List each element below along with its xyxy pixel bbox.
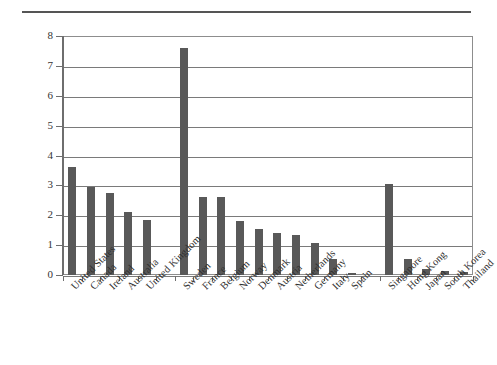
- x-axis-labels-group: United StatesCanadaIrelandAustraliaUnite…: [0, 0, 497, 365]
- x-axis-label-spain: Spain: [349, 267, 374, 292]
- chart-page: 012345678 United StatesCanadaIrelandAust…: [0, 0, 497, 365]
